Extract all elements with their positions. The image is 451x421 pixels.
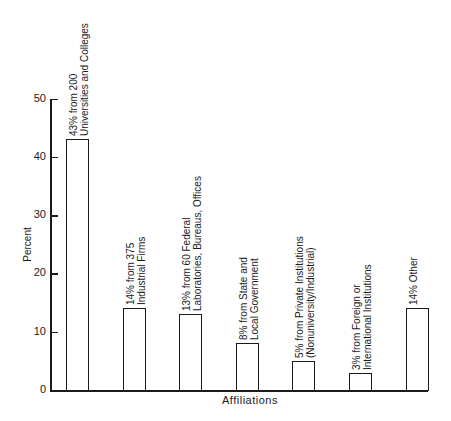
- bar-label: 14% from 375Industrial Firms: [125, 237, 147, 305]
- y-tick: [50, 332, 58, 334]
- bar-label: 13% from 60 FederalLaboratories, Bureaus…: [181, 176, 203, 311]
- bar-label: 3% from Foreign orInternational Institut…: [351, 264, 373, 370]
- y-tick-label: 50: [22, 92, 46, 104]
- bar: [123, 308, 146, 391]
- y-tick: [50, 99, 58, 101]
- bar-label: 8% from State andLocal Government: [238, 258, 260, 341]
- y-axis-label: Percent: [22, 227, 33, 261]
- bar: [349, 373, 372, 391]
- bar: [406, 308, 429, 391]
- y-tick-label: 0: [22, 383, 46, 395]
- bar: [66, 139, 89, 391]
- y-tick-label: 20: [22, 266, 46, 278]
- y-tick-label: 40: [22, 150, 46, 162]
- x-axis-label: Affiliations: [222, 394, 278, 406]
- bar-label: 5% from Private Institutions(Nonuniversi…: [294, 236, 316, 358]
- bar-label: 14% Other: [408, 258, 419, 306]
- y-tick-label: 10: [22, 325, 46, 337]
- bar: [292, 361, 315, 391]
- bar: [236, 343, 259, 391]
- y-tick: [50, 273, 58, 275]
- bar-label: 43% from 200Universities and Colleges: [68, 23, 90, 136]
- y-tick: [50, 215, 58, 217]
- y-tick-label: 30: [22, 208, 46, 220]
- bar: [179, 314, 202, 391]
- y-tick: [50, 157, 58, 159]
- bar-chart: 01020304050 Percent Affiliations 43% fro…: [0, 0, 451, 421]
- y-axis-line: [50, 99, 52, 391]
- y-tick: [50, 390, 58, 392]
